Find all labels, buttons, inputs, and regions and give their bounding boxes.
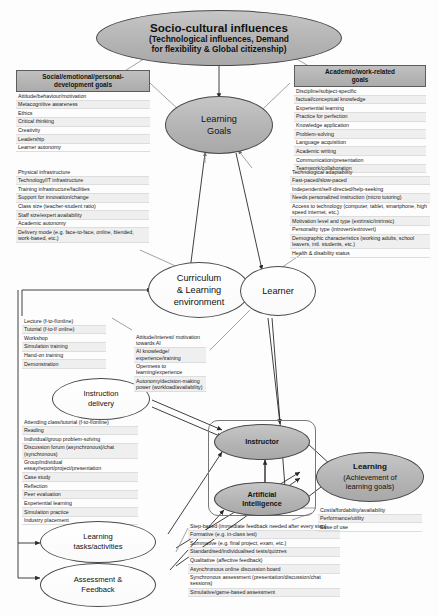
list-item-ai-criterion: Cost/affordability/availability <box>318 506 422 515</box>
list-item-task-type: Case study <box>22 473 138 482</box>
list-item-institution-factor: Physical infrastructure <box>16 168 149 177</box>
list-item-attitude-ai: Openness to learning/experience <box>134 363 206 378</box>
list-item-academic-goal: Discipline/subject-specific <box>294 87 426 96</box>
academic-goals-title-l1: Academic/work-related <box>325 68 395 75</box>
list-item-task-type: Reflection <box>22 482 138 491</box>
list-item-attitude-ai: Attitude/interest/ motivation towards AI <box>134 333 206 348</box>
node-curriculum-learning-environment: Curriculum & Learning environment <box>148 262 250 318</box>
list-item-assessment-type: Formative (e.g. in-class test) <box>188 531 340 540</box>
list-attitude-towards-ai: Attitude/interest/ motivation towards AI… <box>134 333 206 392</box>
list-item-social-goal: Attitude/behaviour/motivation <box>16 92 150 101</box>
learning-goals-line1: Learning <box>201 114 237 124</box>
instruction-delivery-l1: Instruction <box>83 389 118 398</box>
list-item-assessment-type: Synchronous assessment (presentation/dis… <box>188 574 340 589</box>
list-item-learner-factor: Demographic characteristics (working adu… <box>290 235 430 250</box>
list-item-social-goal: Creativity <box>16 127 150 136</box>
list-item-academic-goal: Language acquisition <box>294 139 426 148</box>
curriculum-l2: & Learning <box>177 285 221 295</box>
list-item-learner-factor: Technological adaptability <box>290 168 430 177</box>
curriculum-l1: Curriculum <box>177 273 221 283</box>
list-social-goals: Attitude/behaviour/motivationMetacogniti… <box>16 92 150 152</box>
list-item-academic-goal: Experiential learning <box>294 104 426 113</box>
list-item-assessment-type: Asynchronous online discussion board <box>188 565 340 574</box>
list-item-learner-factor: Access to technology (computer, tablet, … <box>290 203 430 218</box>
socio-cultural-title: Socio-cultural influences <box>149 21 289 35</box>
list-item-assessment-type: Standardised/individualised tests/quizze… <box>188 548 340 557</box>
list-institution-factors: Physical infrastructureTechnology/IT inf… <box>16 168 149 243</box>
learning-tasks-l2: tasks/activities <box>74 542 123 551</box>
list-item-task-type: Simulation practice <box>22 508 138 517</box>
list-item-attitude-ai: Autonomy/decision-making power (workload… <box>134 377 206 392</box>
list-item-learner-factor: Needs personalized instruction (micro tu… <box>290 194 430 203</box>
assessment-l1: Assessment & <box>74 575 123 584</box>
list-item-task-type: Attending class/tutorial (f-to-f/online) <box>22 418 138 427</box>
list-item-delivery-mode: Workshop <box>22 334 106 343</box>
list-item-academic-goal: Communication/presentation <box>294 156 426 165</box>
list-item-delivery-mode: Tutorial (f-to-f/ online) <box>22 326 106 335</box>
social-goals-title-l1: Social/emotional/personal- <box>42 73 123 80</box>
list-item-delivery-mode: Demonstration <box>22 360 106 369</box>
list-item-institution-factor: Support for innovation/change <box>16 194 149 203</box>
panel-header-social-goals: Social/emotional/personal- development g… <box>16 70 150 92</box>
list-item-institution-factor: Academic autonomy <box>16 220 149 229</box>
instruction-delivery-l2: delivery <box>88 399 114 408</box>
list-item-institution-factor: Staff size/expert availability <box>16 211 149 220</box>
list-item-attitude-ai: AI knowledge/ experience/training <box>134 348 206 363</box>
learning-outcome-l2: (Achievement of <box>343 473 396 482</box>
list-item-learner-factor: Independent/self-directed/help-seeking <box>290 185 430 194</box>
node-artificial-intelligence: Artificial Intelligence <box>214 482 310 516</box>
list-item-assessment-type: Simulative/game-based assessment <box>188 589 340 598</box>
list-item-task-type: Reading <box>22 427 138 436</box>
list-item-social-goal: Critical thinking <box>16 118 150 127</box>
list-delivery-modes: Lecture (f-to-f/online)Tutorial (f-to-f/… <box>22 317 106 369</box>
list-item-social-goal: Leadership <box>16 135 150 144</box>
list-item-ai-criterion: Performance/utility <box>318 515 422 524</box>
panel-header-academic-goals: Academic/work-related goals <box>294 65 426 87</box>
node-learning-goals: Learning Goals <box>165 96 273 154</box>
socio-cultural-sub1: (Technological influences, Demand <box>149 34 289 44</box>
list-item-institution-factor: Delivery mode (e.g. face-to-face, online… <box>16 228 149 243</box>
learning-goals-line2: Goals <box>207 126 231 136</box>
list-item-delivery-mode: Simulation training <box>22 343 106 352</box>
list-item-academic-goal: Practice for perfection <box>294 113 426 122</box>
list-item-task-type: Peer evaluation <box>22 491 138 500</box>
list-item-learner-factor: Motivation level and type (extrinsic/int… <box>290 217 430 226</box>
list-item-institution-factor: Training infrastructure/facilities <box>16 185 149 194</box>
socio-cultural-sub2: for flexibility & Global citizenship) <box>152 44 287 54</box>
list-item-institution-factor: Class size (teacher-student ratio) <box>16 203 149 212</box>
learning-outcome-l3: learning goals) <box>346 482 394 491</box>
list-item-social-goal: Learner autonomy <box>16 144 150 153</box>
node-learner: Learner <box>240 266 316 316</box>
list-item-learner-factor: Personality type (introvert/extrovert) <box>290 226 430 235</box>
list-task-types: Attending class/tutorial (f-to-f/online)… <box>22 418 138 525</box>
learning-outcome-title: Learning <box>343 462 396 472</box>
list-ai-criteria: Cost/affordability/availabilityPerforman… <box>318 506 422 532</box>
node-assessment-feedback: Assessment & Feedback <box>40 563 156 607</box>
list-item-academic-goal: Problem-solving <box>294 130 426 139</box>
list-item-assessment-type: Summative (e.g. final project, exam, etc… <box>188 539 340 548</box>
curriculum-l3: environment <box>174 297 225 307</box>
learner-label: Learner <box>262 286 294 296</box>
ai-l2: Intelligence <box>242 499 282 508</box>
node-learning-tasks-activities: Learning tasks/activities <box>40 521 156 563</box>
ai-l1: Artificial <box>248 490 277 499</box>
node-learning-outcome: Learning (Achievement of learning goals) <box>316 452 424 502</box>
assessment-l2: Feedback <box>81 585 114 594</box>
list-item-academic-goal: Knowledge application <box>294 122 426 131</box>
list-item-delivery-mode: Hand-on training <box>22 352 106 361</box>
list-learner-factors: Technological adaptabilityFast-paced/slo… <box>290 168 430 258</box>
list-academic-goals: Discipline/subject-specificfactual/conce… <box>294 87 426 173</box>
list-item-institution-factor: Technology/IT infrastructure <box>16 177 149 186</box>
list-item-task-type: Group/individual essay/report/project/pr… <box>22 459 138 474</box>
list-item-learner-factor: Fast-paced/slow-paced <box>290 177 430 186</box>
list-item-delivery-mode: Lecture (f-to-f/online) <box>22 317 106 326</box>
academic-goals-title-l2: goals <box>352 76 369 83</box>
list-item-learner-factor: Health & disability status <box>290 249 430 258</box>
instructor-label: Instructor <box>245 437 279 446</box>
diagram-canvas: Socio-cultural influences (Technological… <box>0 0 438 616</box>
list-item-academic-goal: factual/conceptual knowledge <box>294 96 426 105</box>
list-item-academic-goal: Academic writing <box>294 147 426 156</box>
list-item-ai-criterion: Ease of use <box>318 523 422 532</box>
list-item-social-goal: Ethics <box>16 109 150 118</box>
node-socio-cultural-influences: Socio-cultural influences (Technological… <box>96 10 342 66</box>
